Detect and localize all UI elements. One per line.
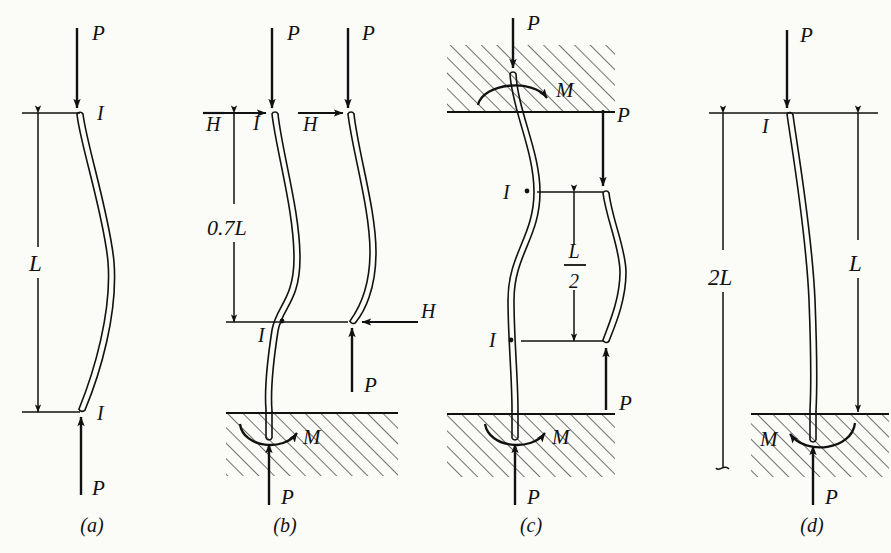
panel-a-label-I-top: I (96, 102, 105, 124)
panel-c-label-P-top: P (526, 11, 540, 35)
panel-c-inflection-dot-upper (525, 189, 530, 194)
column-buckling-diagram: P I I L P (a) (0, 0, 891, 553)
panel-c-ground-top (447, 45, 615, 112)
panel-d-label-L: L (848, 251, 862, 276)
panel-c-label-M-top: M (555, 78, 575, 102)
panel-b-label-I-mid: I (257, 324, 266, 346)
panel-b-fb-label-P-top: P (361, 21, 375, 45)
panel-c-label-I-upper: I (502, 181, 511, 203)
panel-d-label-P-top: P (799, 23, 813, 47)
panel-b-caption: (b) (273, 514, 297, 537)
panel-b-fb-label-H-top: H (302, 113, 319, 135)
panel-a-label-P-bottom: P (91, 476, 105, 500)
panel-c-caption: (c) (520, 514, 543, 537)
panel-c-ground-base (447, 414, 615, 477)
panel-c-fb-label-P-top: P (616, 103, 630, 127)
panel-d-label-M: M (759, 427, 779, 451)
panel-c-label-P-base: P (526, 485, 540, 509)
panel-c-label-2-denominator: 2 (569, 270, 579, 292)
panel-a-label-I-bottom: I (96, 402, 105, 424)
panel-d-label-P-base: P (824, 485, 838, 509)
panel-b-label-P-base: P (280, 485, 294, 509)
panel-b-label-0.7L: 0.7L (207, 215, 247, 240)
panel-c-label-L-numerator: L (567, 240, 579, 262)
panel-a-caption: (a) (80, 514, 104, 537)
panel-c-label-M-base: M (551, 425, 571, 449)
panel-b-label-P-top: P (286, 21, 300, 45)
figure-canvas: P I I L P (a) (0, 0, 891, 553)
panel-d-label-I-top: I (761, 115, 770, 137)
panel-c-inflection-dot-lower (509, 338, 514, 343)
panel-c-label-I-lower: I (488, 329, 497, 351)
panel-a-label-P-top: P (91, 21, 105, 45)
panel-d-label-2L: 2L (708, 265, 732, 290)
panel-b-inflection-dot (280, 319, 285, 324)
panel-b-fb-label-P-bottom: P (363, 373, 377, 397)
panel-b-label-M: M (302, 425, 322, 449)
panel-a-label-L: L (28, 251, 42, 276)
panel-b-label-H-top: H (205, 113, 222, 135)
panel-c-fb-label-P-bottom: P (618, 391, 632, 415)
panel-d-caption: (d) (800, 514, 824, 537)
panel-b-label-I-top: I (252, 112, 261, 134)
panel-b-fb-label-H-bottom: H (420, 300, 437, 322)
